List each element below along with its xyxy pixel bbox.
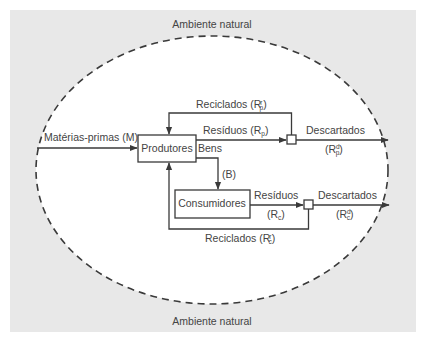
natural-environment-boundary	[36, 36, 388, 304]
consumers-label: Consumidores	[178, 197, 246, 209]
environment-label-top: Ambiente natural	[172, 18, 251, 30]
producer-discarded-label: Descartados	[306, 124, 365, 136]
producer-waste-junction	[287, 135, 296, 144]
producer-recycled-label: Reciclados (Rrp)	[196, 98, 267, 112]
producer-discarded-symbol: (Rdp)	[325, 143, 343, 157]
producer-waste-label: Resíduos (Rp)	[203, 124, 268, 138]
consumer-recycled-label: Reciclados (Rrc)	[205, 232, 275, 245]
consumer-discarded-label: Descartados	[318, 189, 377, 201]
raw-materials-label: Matérias-primas (M)	[44, 131, 138, 143]
material-flow-diagram: Ambiente natural Ambiente natural Matéri…	[0, 0, 425, 338]
consumer-discarded-symbol: (Rdc)	[336, 208, 353, 221]
producers-label: Produtores	[141, 142, 192, 154]
consumer-waste-label: Resíduos	[254, 189, 298, 201]
consumer-waste-symbol: (Rc)	[267, 208, 285, 221]
environment-label-bottom: Ambiente natural	[172, 315, 251, 327]
goods-label: Bens	[198, 142, 222, 154]
goods-symbol-label: (B)	[222, 168, 236, 180]
consumer-waste-junction	[304, 200, 313, 209]
